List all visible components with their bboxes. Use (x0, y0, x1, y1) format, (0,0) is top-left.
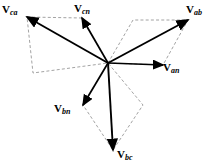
label-v-bn-subscript: bn (62, 107, 70, 116)
label-v-ab-symbol: V (186, 3, 194, 15)
label-v-an: Van (163, 62, 179, 73)
label-v-cn-symbol: V (74, 2, 82, 14)
label-v-bn: Vbn (54, 103, 70, 114)
phasor-diagram-canvas (0, 0, 211, 167)
construction-lines-group (27, 17, 188, 150)
label-v-ca-subscript: ca (10, 8, 18, 17)
label-v-ab-subscript: ab (194, 8, 202, 17)
label-v-ab: Vab (186, 4, 202, 15)
vector-arrow-v-ca (27, 17, 108, 63)
label-v-bn-symbol: V (54, 102, 62, 114)
label-v-bc: Vbc (117, 149, 133, 160)
label-v-bc-subscript: bc (125, 153, 133, 162)
label-v-ca-symbol: V (2, 3, 10, 15)
label-v-cn-subscript: cn (82, 7, 90, 16)
label-v-bc-symbol: V (117, 148, 125, 160)
label-v-an-subscript: an (171, 66, 179, 75)
vector-arrows-group (27, 17, 188, 150)
vector-arrow-v-bn (83, 63, 108, 105)
label-v-cn: Vcn (74, 3, 90, 14)
label-v-ca: Vca (2, 4, 18, 15)
vector-arrow-v-an (108, 63, 163, 65)
vector-arrow-v-ab (108, 20, 188, 63)
vector-arrow-v-bc (108, 63, 113, 150)
ca-parallelogram (27, 17, 108, 73)
phasor-diagram-figure: Vca Vcn Vab Van Vbn Vbc (0, 0, 211, 167)
label-v-an-symbol: V (163, 61, 171, 73)
